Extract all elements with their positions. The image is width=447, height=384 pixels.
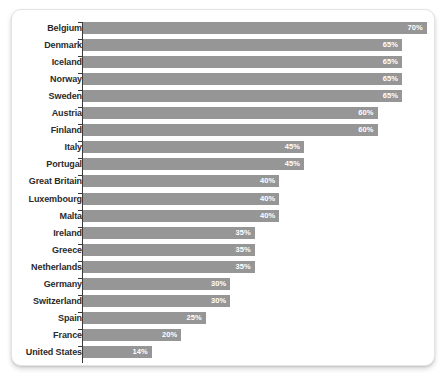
category-label: Netherlands bbox=[0, 261, 82, 274]
bar: 30% bbox=[83, 278, 230, 290]
bar: 35% bbox=[83, 227, 255, 239]
bar-chart-plot-area: Belgium70%Denmark65%Iceland65%Norway65%S… bbox=[12, 10, 436, 367]
category-label: Italy bbox=[0, 141, 82, 154]
category-label: Iceland bbox=[0, 56, 82, 69]
bar: 65% bbox=[83, 90, 402, 102]
bar-row: France20% bbox=[12, 329, 436, 346]
bar-value-label: 20% bbox=[162, 329, 177, 341]
bar-row: Iceland65% bbox=[12, 56, 436, 73]
bar-row: Luxembourg40% bbox=[12, 193, 436, 210]
category-label: Germany bbox=[0, 278, 82, 291]
category-label: Finland bbox=[0, 124, 82, 137]
bar-value-label: 35% bbox=[236, 227, 251, 239]
category-label: United States bbox=[0, 346, 82, 359]
category-label: Luxembourg bbox=[0, 193, 82, 206]
category-label: Malta bbox=[0, 210, 82, 223]
bar-row: Austria60% bbox=[12, 107, 436, 124]
category-label: Ireland bbox=[0, 227, 82, 240]
bar-row: United States14% bbox=[12, 346, 436, 363]
bar: 65% bbox=[83, 56, 402, 68]
category-label: Austria bbox=[0, 107, 82, 120]
bar-value-label: 70% bbox=[407, 22, 422, 34]
bar-value-label: 45% bbox=[285, 158, 300, 170]
bar-row: Switzerland30% bbox=[12, 295, 436, 312]
category-label: Belgium bbox=[0, 22, 82, 35]
bar-row: Malta40% bbox=[12, 210, 436, 227]
category-label: Norway bbox=[0, 73, 82, 86]
category-label: Greece bbox=[0, 244, 82, 257]
bar-row: Portugal45% bbox=[12, 158, 436, 175]
bar: 65% bbox=[83, 73, 402, 85]
category-label: Spain bbox=[0, 312, 82, 325]
bar-value-label: 40% bbox=[260, 193, 275, 205]
bar-row: Sweden65% bbox=[12, 90, 436, 107]
bar-row: Ireland35% bbox=[12, 227, 436, 244]
bar-value-label: 35% bbox=[236, 261, 251, 273]
bar: 65% bbox=[83, 39, 402, 51]
bar-value-label: 65% bbox=[383, 39, 398, 51]
bar-row: Denmark65% bbox=[12, 39, 436, 56]
bar-value-label: 30% bbox=[211, 278, 226, 290]
bar-value-label: 35% bbox=[236, 244, 251, 256]
bar-row: Italy45% bbox=[12, 141, 436, 158]
bar-value-label: 65% bbox=[383, 56, 398, 68]
bar-row: Greece35% bbox=[12, 244, 436, 261]
bar-value-label: 40% bbox=[260, 210, 275, 222]
bar: 45% bbox=[83, 141, 304, 153]
bar-value-label: 40% bbox=[260, 175, 275, 187]
bar: 60% bbox=[83, 124, 378, 136]
category-label: Great Britain bbox=[0, 175, 82, 188]
bar: 35% bbox=[83, 261, 255, 273]
bar: 40% bbox=[83, 210, 279, 222]
bar: 60% bbox=[83, 107, 378, 119]
bar: 30% bbox=[83, 295, 230, 307]
bar: 14% bbox=[83, 346, 152, 358]
bar-row: Spain25% bbox=[12, 312, 436, 329]
bar-row: Finland60% bbox=[12, 124, 436, 141]
bar-row: Belgium70% bbox=[12, 22, 436, 39]
bar-row: Germany30% bbox=[12, 278, 436, 295]
bar-row: Netherlands35% bbox=[12, 261, 436, 278]
bar: 35% bbox=[83, 244, 255, 256]
category-label: France bbox=[0, 329, 82, 342]
bar: 70% bbox=[83, 22, 427, 34]
bar-row: Norway65% bbox=[12, 73, 436, 90]
bar-value-label: 45% bbox=[285, 141, 300, 153]
bar: 40% bbox=[83, 175, 279, 187]
bar: 45% bbox=[83, 158, 304, 170]
bar-value-label: 60% bbox=[358, 124, 373, 136]
bar-value-label: 25% bbox=[186, 312, 201, 324]
bar: 20% bbox=[83, 329, 181, 341]
bar-row: Great Britain40% bbox=[12, 175, 436, 192]
bar-value-label: 65% bbox=[383, 73, 398, 85]
category-label: Switzerland bbox=[0, 295, 82, 308]
bar-value-label: 60% bbox=[358, 107, 373, 119]
category-label: Sweden bbox=[0, 90, 82, 103]
category-label: Denmark bbox=[0, 39, 82, 52]
bar: 25% bbox=[83, 312, 206, 324]
bar-value-label: 30% bbox=[211, 295, 226, 307]
bar-value-label: 65% bbox=[383, 90, 398, 102]
bar: 40% bbox=[83, 193, 279, 205]
category-label: Portugal bbox=[0, 158, 82, 171]
bar-value-label: 14% bbox=[132, 346, 147, 358]
chart-card: Belgium70%Denmark65%Iceland65%Norway65%S… bbox=[11, 9, 435, 366]
